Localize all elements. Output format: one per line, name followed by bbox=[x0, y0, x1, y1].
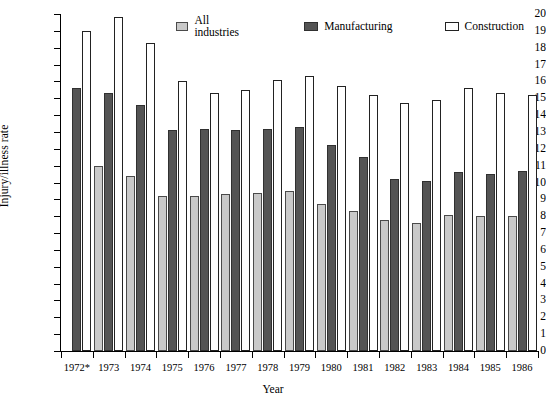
x-axis-tick-label: 1985 bbox=[474, 361, 506, 377]
x-axis-line bbox=[60, 351, 538, 352]
bar-group bbox=[347, 14, 379, 351]
bar-all-industries-1980 bbox=[317, 204, 326, 351]
legend-label-all-industries: All industries bbox=[194, 14, 248, 38]
bar-manufacturing-1981 bbox=[359, 157, 368, 351]
x-axis-tick bbox=[506, 351, 507, 358]
x-axis-tick bbox=[315, 351, 316, 358]
x-axis-tick bbox=[93, 351, 94, 358]
x-axis-tick-label: 1984 bbox=[443, 361, 475, 377]
bar-all-industries-1979 bbox=[285, 191, 294, 351]
bar-group bbox=[506, 14, 538, 351]
bar-construction-1972 bbox=[82, 31, 91, 351]
bar-construction-1976 bbox=[210, 93, 219, 351]
bar-manufacturing-1972 bbox=[72, 88, 81, 351]
legend-swatch-construction-icon bbox=[445, 22, 459, 31]
bar-group bbox=[125, 14, 157, 351]
bar-group bbox=[315, 14, 347, 351]
bar-manufacturing-1974 bbox=[136, 105, 145, 351]
chart-legend: All industries Manufacturing Constructio… bbox=[176, 17, 524, 35]
x-axis-labels: 1972*19731974197519761977197819791980198… bbox=[61, 361, 538, 377]
x-axis-tick-label: 1978 bbox=[252, 361, 284, 377]
bar-all-industries-1973 bbox=[94, 166, 103, 351]
bar-manufacturing-1979 bbox=[295, 127, 304, 351]
bar-all-industries-1981 bbox=[349, 211, 358, 351]
bar-construction-1985 bbox=[496, 93, 505, 351]
bar-group bbox=[93, 14, 125, 351]
x-axis-tick bbox=[538, 351, 539, 358]
x-axis-tick-label: 1982 bbox=[379, 361, 411, 377]
x-axis-tick bbox=[443, 351, 444, 358]
bar-group bbox=[411, 14, 443, 351]
x-axis-tick bbox=[125, 351, 126, 358]
x-axis-tick-label: 1972* bbox=[61, 361, 93, 377]
bar-group bbox=[156, 14, 188, 351]
x-axis-tick-label: 1986 bbox=[506, 361, 538, 377]
x-axis-tick bbox=[188, 351, 189, 358]
bar-group bbox=[443, 14, 475, 351]
bar-groups bbox=[61, 14, 538, 351]
bar-all-industries-1986 bbox=[508, 216, 517, 351]
bar-construction-1986 bbox=[528, 95, 537, 351]
bar-manufacturing-1982 bbox=[390, 179, 399, 351]
bar-manufacturing-1977 bbox=[231, 130, 240, 351]
x-axis-tick-label: 1974 bbox=[125, 361, 157, 377]
x-axis-tick-label: 1973 bbox=[93, 361, 125, 377]
x-axis-title: Year bbox=[0, 383, 546, 395]
legend-swatch-manufacturing-icon bbox=[304, 22, 318, 31]
bar-construction-1980 bbox=[337, 86, 346, 351]
x-axis-tick-label: 1976 bbox=[188, 361, 220, 377]
bar-group bbox=[188, 14, 220, 351]
legend-item-all-industries: All industries bbox=[176, 14, 248, 38]
bar-all-industries-1984 bbox=[444, 215, 453, 351]
bar-all-industries-1978 bbox=[253, 193, 262, 351]
x-axis-tick-label: 1981 bbox=[347, 361, 379, 377]
bar-all-industries-1974 bbox=[126, 176, 135, 351]
bar-manufacturing-1975 bbox=[168, 130, 177, 351]
bar-construction-1981 bbox=[369, 95, 378, 351]
bar-all-industries-1983 bbox=[412, 223, 421, 351]
bar-construction-1975 bbox=[178, 81, 187, 351]
bar-construction-1974 bbox=[146, 43, 155, 351]
legend-item-manufacturing: Manufacturing bbox=[304, 20, 392, 32]
bar-construction-1982 bbox=[400, 103, 409, 351]
bar-manufacturing-1985 bbox=[486, 174, 495, 351]
bar-manufacturing-1978 bbox=[263, 129, 272, 351]
x-axis-tick bbox=[411, 351, 412, 358]
bar-construction-1978 bbox=[273, 80, 282, 351]
legend-label-construction: Construction bbox=[465, 20, 524, 32]
bar-group bbox=[474, 14, 506, 351]
x-axis-tick-label: 1979 bbox=[284, 361, 316, 377]
injury-illness-rate-bar-chart: Injury/illness rate 01234567891011121314… bbox=[0, 0, 546, 404]
x-axis-tick-label: 1980 bbox=[315, 361, 347, 377]
bar-group bbox=[379, 14, 411, 351]
x-axis-tick bbox=[156, 351, 157, 358]
bar-construction-1973 bbox=[114, 17, 123, 351]
x-axis-tick-label: 1983 bbox=[411, 361, 443, 377]
x-axis-tick-label: 1975 bbox=[156, 361, 188, 377]
bar-all-industries-1977 bbox=[221, 194, 230, 351]
bar-construction-1983 bbox=[432, 100, 441, 351]
bar-construction-1984 bbox=[464, 88, 473, 351]
bar-group bbox=[252, 14, 284, 351]
bar-construction-1977 bbox=[241, 90, 250, 351]
x-axis-tick bbox=[252, 351, 253, 358]
x-axis-tick bbox=[284, 351, 285, 358]
legend-item-construction: Construction bbox=[445, 20, 524, 32]
bar-group bbox=[220, 14, 252, 351]
bar-manufacturing-1973 bbox=[104, 93, 113, 351]
bar-all-industries-1976 bbox=[190, 196, 199, 351]
x-axis-tick bbox=[379, 351, 380, 358]
x-axis-tick-label: 1977 bbox=[220, 361, 252, 377]
x-axis-tick bbox=[474, 351, 475, 358]
bar-manufacturing-1983 bbox=[422, 181, 431, 351]
bar-all-industries-1975 bbox=[158, 196, 167, 351]
bar-group bbox=[61, 14, 93, 351]
x-axis-tick bbox=[61, 351, 62, 358]
legend-swatch-all-industries-icon bbox=[176, 22, 188, 31]
x-axis-tick bbox=[220, 351, 221, 358]
bar-manufacturing-1984 bbox=[454, 172, 463, 351]
y-axis-title: Injury/illness rate bbox=[0, 36, 10, 296]
bar-all-industries-1982 bbox=[380, 220, 389, 351]
bar-manufacturing-1986 bbox=[518, 171, 527, 351]
x-axis-tick bbox=[347, 351, 348, 358]
